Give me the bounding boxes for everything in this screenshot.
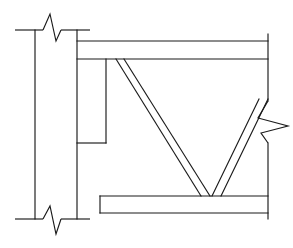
detail-svg-canvas: [0, 0, 293, 248]
drawing-background: [0, 0, 293, 248]
structural-detail-drawing: [0, 0, 293, 248]
